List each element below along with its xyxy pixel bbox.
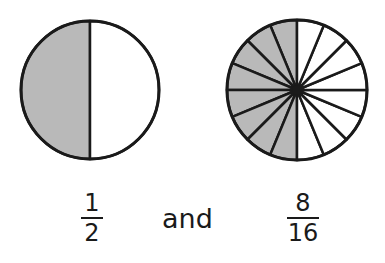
shaded-sector <box>21 21 90 159</box>
denominator: 2 <box>84 220 99 246</box>
fraction-eight-sixteenths: 8 16 <box>284 190 322 246</box>
numerator: 8 <box>295 190 310 216</box>
numerator: 1 <box>84 190 99 216</box>
denominator: 16 <box>288 220 319 246</box>
center-hub <box>292 85 302 95</box>
circle-sixteenths <box>227 20 367 160</box>
fraction-one-half: 1 2 <box>79 190 105 246</box>
connector-word: and <box>162 204 213 234</box>
unshaded-sector <box>90 21 159 159</box>
circle-halves <box>21 21 159 159</box>
